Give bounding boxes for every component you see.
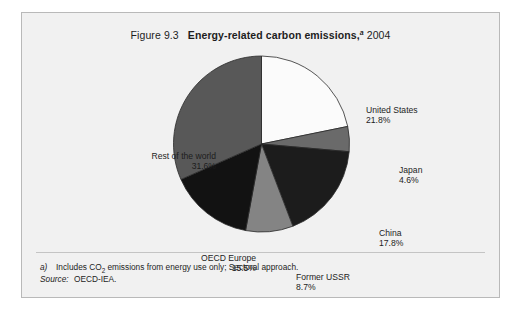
pie-label-japan-value: 4.6% (399, 175, 422, 185)
pie-label-japan-name: Japan (399, 165, 422, 175)
pie-label-united-states-name: United States (366, 105, 418, 115)
source-value: OECD-IEA. (74, 274, 116, 284)
pie-label-rest-of-the-world-name: Rest of the world (114, 151, 216, 161)
figure-year: 2004 (367, 29, 391, 41)
footnote-text-before: Includes CO (56, 262, 102, 272)
footnote-line: a)Includes CO2 emissions from energy use… (40, 261, 481, 273)
pie-label-rest-of-the-world-value: 31.6% (114, 161, 216, 171)
pie-label-china-name: China (379, 228, 403, 238)
pie-chart: United States 21.8% Japan 4.6% China 17.… (22, 45, 501, 253)
footnote-marker: a) (40, 261, 56, 273)
figure-title-text: Energy-related carbon emissions, (188, 29, 360, 41)
footnote-text-after: emissions from energy use only; Sectoral… (105, 262, 298, 272)
figure-title: Figure 9.3 Energy-related carbon emissio… (22, 29, 499, 41)
pie-label-united-states: United States 21.8% (366, 105, 418, 126)
pie-label-china-value: 17.8% (379, 238, 403, 248)
figure-notes: a)Includes CO2 emissions from energy use… (22, 261, 499, 285)
footnote-marker-superscript: a (360, 29, 364, 36)
pie-label-china: China 17.8% (379, 228, 403, 249)
figure-number: Figure 9.3 (131, 29, 179, 41)
figure-panel: Figure 9.3 Energy-related carbon emissio… (21, 12, 500, 298)
pie-label-rest-of-the-world: Rest of the world 31.6% (114, 151, 216, 172)
notes-divider (36, 252, 485, 253)
pie-chart-svg (22, 45, 501, 253)
source-line: Source:OECD-IEA. (40, 273, 481, 285)
pie-label-united-states-value: 21.8% (366, 115, 418, 125)
footnote-text: Includes CO2 emissions from energy use o… (56, 262, 298, 272)
pie-label-japan: Japan 4.6% (399, 165, 422, 186)
pie-slice-group (173, 56, 349, 232)
source-label: Source: (40, 273, 74, 285)
